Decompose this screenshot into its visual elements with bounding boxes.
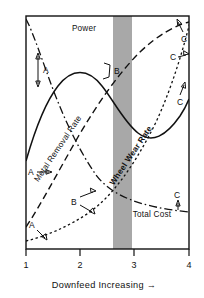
shaded-band-optimum-zone xyxy=(113,16,132,249)
x-axis-ticks xyxy=(26,249,189,256)
curve-label-power: Power xyxy=(72,24,96,33)
chart-svg: 1 2 3 4 Downfeed Increasing → Power Meta… xyxy=(0,0,204,298)
annotation-c4-label: C xyxy=(174,190,180,200)
annotation-b2-label: B xyxy=(71,197,77,207)
annotation-c1-label: C xyxy=(181,34,187,44)
curve-label-metal-removal-rate: Metal Removal Rate xyxy=(32,114,83,184)
annotation-c3: C xyxy=(177,82,186,107)
annotation-b1-label: B xyxy=(114,66,120,76)
annotation-a1: A xyxy=(36,53,49,87)
annotation-c3-label: C xyxy=(177,97,183,107)
annotation-a2-label: A xyxy=(28,167,34,177)
annotation-c2-label: C xyxy=(170,52,176,62)
curve-total-cost xyxy=(26,19,189,212)
annotation-c2: C xyxy=(170,51,189,62)
annotation-b2: B xyxy=(71,188,96,214)
curve-label-total-cost: Total Cost xyxy=(133,210,172,219)
x-tick-label-4: 4 xyxy=(186,260,191,270)
annotation-c4: C xyxy=(174,190,180,210)
x-tick-label-1: 1 xyxy=(23,260,28,270)
annotation-c1: C xyxy=(177,19,187,44)
curve-metal-removal-rate xyxy=(26,22,189,227)
annotation-a3: A xyxy=(29,220,47,240)
x-tick-label-3: 3 xyxy=(131,260,136,270)
x-tick-label-2: 2 xyxy=(77,260,82,270)
curve-power xyxy=(26,73,189,162)
chart-figure: 1 2 3 4 Downfeed Increasing → Power Meta… xyxy=(0,0,204,298)
x-axis-label: Downfeed Increasing → xyxy=(52,280,156,290)
annotation-a1-label: A xyxy=(43,65,49,75)
annotation-a3-label: A xyxy=(29,220,35,230)
